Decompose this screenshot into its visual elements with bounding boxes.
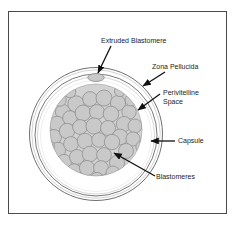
- label-extruded-blastomere: Extruded Blastomere: [101, 37, 166, 46]
- blastomere-cluster: [42, 84, 149, 186]
- label-perivitelline-space-line2: Space: [163, 98, 183, 105]
- label-perivitelline-space: PerivitellineSpace: [163, 89, 209, 106]
- label-blastomeres: Blastomeres: [156, 173, 195, 182]
- label-perivitelline-space-line1: Perivitelline: [163, 89, 199, 96]
- label-capsule: Capsule: [178, 137, 204, 146]
- embryo-diagram: [0, 0, 238, 226]
- label-zona-pellucida: Zona Pellucida: [152, 63, 198, 72]
- leader-zona-pellucida: [143, 72, 165, 86]
- extruded-blastomere-cell: [88, 74, 104, 82]
- figure-root: Extruded Blastomere Zona Pellucida Periv…: [0, 0, 238, 226]
